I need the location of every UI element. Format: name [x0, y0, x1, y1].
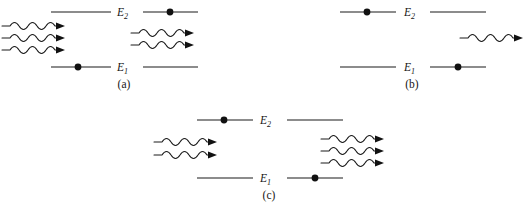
panel-c-caption: (c) — [263, 189, 276, 202]
panel-a-incoming-photon-2 — [2, 35, 65, 42]
panel-b-lower-level-label: E1 — [403, 61, 415, 76]
panel-c-upper-level-label: E2 — [259, 114, 271, 129]
energy-level-transition-figure: E2 — [0, 0, 529, 212]
panel-c-electron-before — [221, 117, 228, 124]
panel-c-lower-level-label: E1 — [259, 172, 271, 187]
panel-a-electron-before — [75, 64, 82, 71]
panel-a-incoming-photon-1 — [2, 23, 65, 30]
panel-a-caption: (a) — [118, 78, 131, 91]
panel-a-upper-level-label: E2 — [116, 6, 128, 21]
panel-a-electron-after — [167, 9, 174, 16]
panel-c-incoming-photon-2 — [154, 152, 217, 159]
panel-a-incoming-photon-3 — [2, 47, 65, 54]
panel-a-outgoing-photon-2 — [131, 42, 194, 49]
panel-b-electron-after — [455, 64, 462, 71]
panel-c-incoming-photon-1 — [154, 139, 217, 146]
panel-c-outgoing-photon-1 — [321, 136, 384, 143]
panel-a-outgoing-photon-1 — [131, 30, 194, 37]
panel-b-upper-level-label: E2 — [403, 6, 415, 21]
panel-c-outgoing-photon-3 — [321, 160, 384, 167]
panel-b-caption: (b) — [405, 78, 419, 91]
panel-b-outgoing-photon-1 — [460, 35, 523, 42]
panel-a-lower-level-label: E1 — [116, 61, 128, 76]
panel-b-spontaneous-emission: E2 E1 (b) — [300, 0, 529, 100]
panel-b-electron-before — [364, 9, 371, 16]
panel-a-absorption: E2 — [0, 0, 220, 100]
panel-c-stimulated-emission: E2 — [145, 106, 405, 212]
panel-c-electron-after — [312, 175, 319, 182]
panel-c-outgoing-photon-2 — [321, 148, 384, 155]
